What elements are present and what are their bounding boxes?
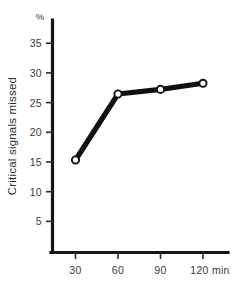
x-tick-label-60: 60: [112, 264, 124, 276]
y-tick-label-10: 10: [30, 186, 42, 198]
y-tick-label-30: 30: [30, 67, 42, 79]
line-chart-plot: 35 30 25 20 15 10 5 30 60 90 120 min % C…: [0, 0, 236, 285]
chart-container: 35 30 25 20 15 10 5 30 60 90 120 min % C…: [0, 0, 236, 285]
data-series-line: [76, 83, 204, 160]
y-tick-label-15: 15: [30, 156, 42, 168]
y-axis-unit-label: %: [36, 11, 45, 22]
y-tick-label-5: 5: [36, 215, 42, 227]
x-tick-label-90: 90: [154, 264, 166, 276]
x-tick-label-120-min: 120 min: [190, 264, 229, 276]
y-tick-label-35: 35: [30, 37, 42, 49]
data-point-marker-90: [157, 86, 164, 93]
data-point-marker-30: [72, 156, 79, 163]
y-tick-label-20: 20: [30, 126, 42, 138]
x-tick-label-30: 30: [69, 264, 81, 276]
y-axis-title: Critical signals missed: [6, 77, 18, 195]
data-point-marker-120: [199, 80, 206, 87]
data-point-marker-60: [114, 90, 121, 97]
y-tick-label-25: 25: [30, 97, 42, 109]
